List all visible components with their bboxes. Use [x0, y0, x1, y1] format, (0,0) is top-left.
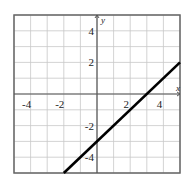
y-tick-label: 4 — [89, 25, 95, 37]
x-tick-label: 2 — [123, 98, 129, 110]
x-tick-label: 4 — [157, 98, 163, 110]
coordinate-plane: -4-22442-2-4 x y — [0, 0, 188, 187]
axes — [14, 15, 180, 173]
x-axis-label: x — [175, 83, 180, 93]
y-tick-label: -2 — [85, 120, 94, 132]
x-tick-label: -4 — [22, 98, 32, 110]
data-series — [64, 62, 180, 173]
line-y-equals-x-minus-3 — [64, 62, 180, 173]
y-tick-label: 2 — [89, 56, 95, 68]
x-tick-label: -2 — [55, 98, 64, 110]
y-axis-label: y — [100, 15, 105, 25]
